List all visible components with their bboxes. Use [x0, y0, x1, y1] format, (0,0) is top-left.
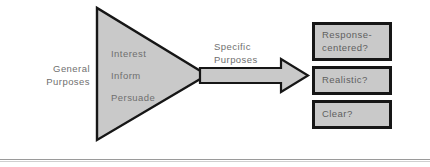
- bottom-divider-line-shadow: [0, 161, 430, 162]
- bottom-divider-line: [0, 159, 430, 160]
- general-purposes-label: General Purposes: [18, 63, 90, 88]
- general-purpose-item-interest: Interest: [111, 48, 146, 59]
- diagram-figure: General Purposes Interest Inform Persuad…: [0, 0, 430, 167]
- outcome-box-response-centered: Response- centered?: [312, 22, 392, 61]
- general-purpose-item-persuade: Persuade: [111, 92, 155, 103]
- general-purpose-item-inform: Inform: [111, 70, 141, 81]
- outcome-box-clear: Clear?: [312, 100, 392, 129]
- outcome-box-realistic: Realistic?: [312, 66, 392, 95]
- specific-purposes-label: Specific Purposes: [214, 41, 284, 66]
